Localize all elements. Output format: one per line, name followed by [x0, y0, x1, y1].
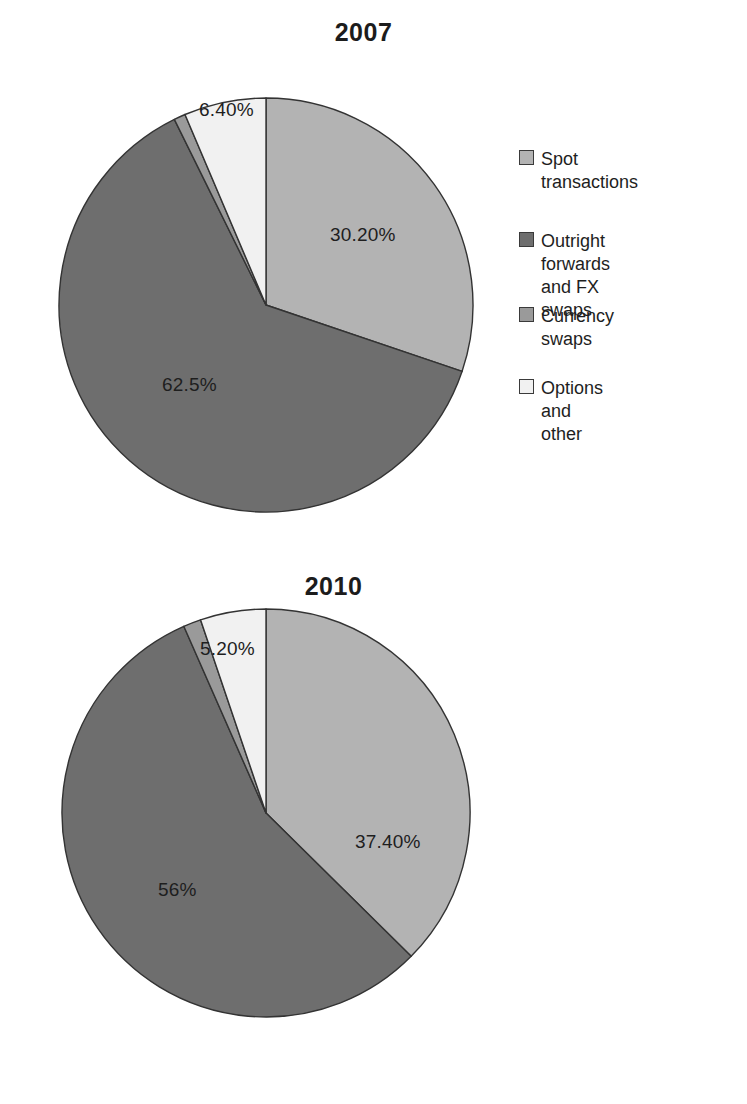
pie-graphic-2007 [57, 96, 475, 514]
legend-item-spot-transactions[interactable]: Spot transactions [519, 148, 638, 194]
slice-label-outright-2007: 62.5% [162, 374, 217, 396]
pie-chart-2010: 2010 5.20% 37.40% 56% Spot transactions … [0, 560, 747, 1104]
pie-svg-2010 [60, 607, 472, 1019]
slice-label-options-2007: 6.40% [199, 99, 254, 121]
slice-label-spot-2010: 37.40% [355, 831, 421, 853]
legend-item-currency-swaps[interactable]: Currency swaps [519, 305, 614, 351]
pie-slices-2007 [59, 98, 473, 512]
pie-slices-2010 [62, 609, 470, 1017]
slice-label-options-2010: 5.20% [200, 638, 255, 660]
legend-label-options-and-other: Options and other [541, 377, 603, 446]
legend-swatch-spot-transactions [519, 150, 534, 165]
pie-svg-2007 [57, 96, 475, 514]
legend-swatch-options-and-other [519, 379, 534, 394]
slice-label-outright-2010: 56% [158, 879, 197, 901]
slice-label-spot-2007: 30.20% [330, 224, 396, 246]
chart-title-2007: 2007 [0, 18, 737, 47]
legend-swatch-outright-forwards [519, 232, 534, 247]
legend-item-options-and-other[interactable]: Options and other [519, 377, 603, 446]
chart-title-2010: 2010 [0, 572, 707, 601]
legend-swatch-currency-swaps [519, 307, 534, 322]
legend-label-currency-swaps: Currency swaps [541, 305, 614, 351]
pie-graphic-2010 [60, 607, 472, 1019]
legend-label-spot-transactions: Spot transactions [541, 148, 638, 194]
pie-chart-2007: 2007 6.40% 30.20% 62.5% Spot transaction… [0, 0, 747, 560]
